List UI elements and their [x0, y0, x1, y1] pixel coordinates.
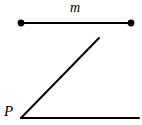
ray-slanted-from-p: [21, 38, 99, 118]
endpoint-dot-right: [128, 20, 135, 27]
endpoint-dot-left: [18, 20, 25, 27]
line-label-m: m: [70, 1, 80, 15]
geometry-canvas: [0, 0, 142, 125]
vertex-label-p: P: [4, 104, 13, 119]
geometry-figure: m P: [0, 0, 142, 125]
